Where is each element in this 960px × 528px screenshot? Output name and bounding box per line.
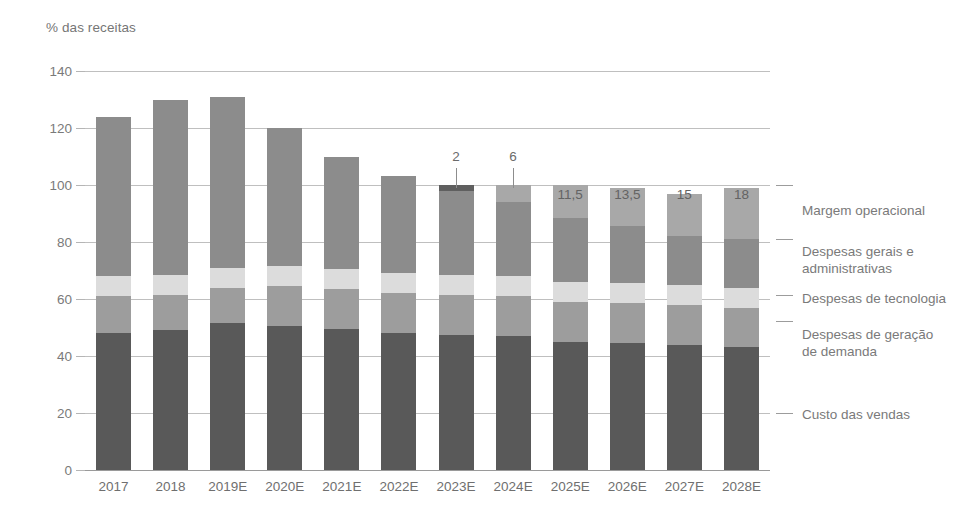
- bar-2022E[interactable]: [381, 176, 416, 470]
- legend-tick-mark: [776, 239, 793, 240]
- value-label-2026E: 13,5: [610, 187, 645, 202]
- value-label-leader-line: [513, 168, 514, 188]
- bar-segment: [439, 275, 474, 295]
- bar-segment: [667, 285, 702, 305]
- bar-2017[interactable]: [96, 117, 131, 470]
- bar-segment: [724, 347, 759, 470]
- y-axis-title: % das receitas: [46, 20, 136, 35]
- value-label-2024E: 6: [496, 149, 531, 164]
- x-axis-label-2028E: 2028E: [713, 479, 770, 494]
- bar-segment: [153, 100, 188, 275]
- bar-2028E[interactable]: [724, 185, 759, 470]
- chart-container: % das receitas 140120100806040200 2611,5…: [0, 0, 960, 528]
- bar-2018[interactable]: [153, 100, 188, 471]
- value-label-2027E: 15: [667, 187, 702, 202]
- bar-segment: [439, 191, 474, 275]
- y-tick-mark: [76, 413, 85, 414]
- x-axis-label-2024E: 2024E: [485, 479, 542, 494]
- bar-segment: [610, 226, 645, 283]
- bar-segment: [153, 330, 188, 470]
- value-label-leader-line: [456, 168, 457, 188]
- bar-segment: [267, 266, 302, 286]
- y-tick-label: 120: [32, 121, 72, 136]
- legend-tick-mark: [776, 185, 793, 186]
- bar-segment: [324, 289, 359, 329]
- bar-segment: [667, 305, 702, 345]
- bar-segment: [324, 157, 359, 270]
- bar-2021E[interactable]: [324, 157, 359, 471]
- bar-segment: [610, 283, 645, 303]
- value-label-2028E: 18: [724, 187, 759, 202]
- bar-segment: [267, 286, 302, 326]
- bar-segment: [496, 202, 531, 276]
- x-axis-label-2018: 2018: [142, 479, 199, 494]
- plot-area: 2611,513,51518: [85, 71, 770, 470]
- bar-segment: [496, 276, 531, 296]
- gridline-140: [85, 71, 770, 72]
- y-tick-label: 0: [32, 463, 72, 478]
- bar-segment: [496, 296, 531, 336]
- legend-tick-mark: [776, 413, 793, 414]
- x-axis-label-2025E: 2025E: [542, 479, 599, 494]
- y-tick-mark: [76, 242, 85, 243]
- bar-2027E[interactable]: [667, 185, 702, 470]
- bar-2024E[interactable]: [496, 185, 531, 470]
- bar-segment: [724, 308, 759, 348]
- bar-segment: [381, 176, 416, 273]
- y-tick-mark: [76, 299, 85, 300]
- bar-segment: [267, 326, 302, 470]
- legend-item-3: Despesas de tecnologia: [802, 290, 946, 307]
- gridline-0: [85, 470, 770, 471]
- bar-segment: [724, 239, 759, 287]
- y-tick-mark: [76, 71, 85, 72]
- x-axis-label-2022E: 2022E: [370, 479, 427, 494]
- y-tick-mark: [76, 470, 85, 471]
- y-tick-label: 140: [32, 64, 72, 79]
- bar-2025E[interactable]: [553, 185, 588, 470]
- legend-item-4: Despesas de geração de demanda: [802, 326, 933, 360]
- y-tick-label: 40: [32, 349, 72, 364]
- bar-segment: [667, 345, 702, 470]
- x-axis-label-2021E: 2021E: [313, 479, 370, 494]
- bar-segment: [439, 335, 474, 470]
- bar-segment: [210, 268, 245, 288]
- x-axis-label-2020E: 2020E: [256, 479, 313, 494]
- bar-segment: [496, 336, 531, 470]
- bar-2023E[interactable]: [439, 185, 474, 470]
- y-tick-label: 100: [32, 178, 72, 193]
- bar-segment: [667, 236, 702, 284]
- legend-item-2: Despesas gerais e administrativas: [802, 243, 914, 277]
- bar-segment: [610, 303, 645, 343]
- bar-segment: [439, 295, 474, 335]
- bar-segment: [153, 295, 188, 331]
- y-tick-label: 60: [32, 292, 72, 307]
- bar-segment: [210, 97, 245, 268]
- bar-segment: [553, 282, 588, 302]
- legend-tick-mark: [776, 321, 793, 322]
- bar-segment: [96, 117, 131, 277]
- bar-2020E[interactable]: [267, 128, 302, 470]
- chart-legend: Margem operacionalDespesas gerais e admi…: [776, 71, 960, 470]
- x-axis-label-2027E: 2027E: [656, 479, 713, 494]
- bar-segment: [96, 276, 131, 296]
- bar-segment: [324, 329, 359, 470]
- bar-2019E[interactable]: [210, 97, 245, 470]
- bar-segment: [724, 288, 759, 308]
- y-tick-label: 20: [32, 406, 72, 421]
- bar-2026E[interactable]: [610, 185, 645, 470]
- legend-item-1: Margem operacional: [802, 202, 925, 219]
- bar-segment: [96, 296, 131, 333]
- bar-segment: [210, 323, 245, 470]
- x-axis-label-2026E: 2026E: [599, 479, 656, 494]
- bar-segment: [96, 333, 131, 470]
- bar-segment: [381, 293, 416, 333]
- y-tick-mark: [76, 185, 85, 186]
- x-axis-label-2019E: 2019E: [199, 479, 256, 494]
- bar-segment: [381, 333, 416, 470]
- x-axis-label-2023E: 2023E: [428, 479, 485, 494]
- bar-segment: [210, 288, 245, 324]
- x-axis-label-2017: 2017: [85, 479, 142, 494]
- value-label-2023E: 2: [439, 149, 474, 164]
- bar-segment: [553, 302, 588, 342]
- y-tick-label: 80: [32, 235, 72, 250]
